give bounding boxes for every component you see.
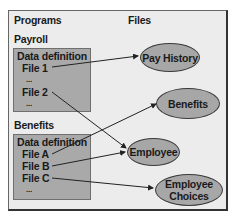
link-arrows <box>0 0 238 222</box>
arrow-file2-employee <box>52 92 126 148</box>
arrow-filec-choices <box>52 178 153 188</box>
arrow-filea-benefits <box>52 104 156 154</box>
arrow-fileb-employee <box>52 152 125 166</box>
arrow-file1-payhistory <box>52 56 138 67</box>
